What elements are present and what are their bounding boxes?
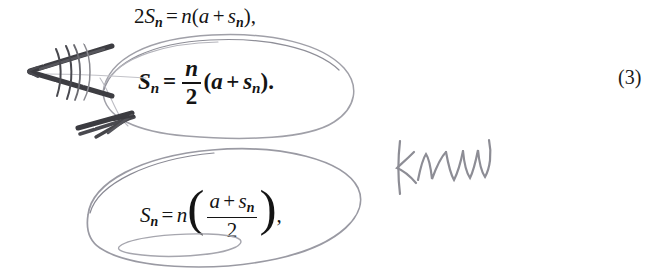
eq1-close-paren: ) (244, 4, 251, 28)
arrow-left (28, 44, 112, 100)
eq3-numerator-s: s (239, 189, 247, 213)
equation-1: 2Sn=n(a+sn), (134, 6, 256, 30)
eq2-trailing-punct: . (268, 69, 274, 94)
eq3-fraction-numerator: a+sn (207, 191, 257, 215)
eq1-lhs-variable: S (145, 4, 156, 28)
eq3-numerator-plus: + (220, 189, 239, 213)
eq3-equals: = (158, 203, 177, 227)
eq3-fraction-denominator: 2 (207, 220, 257, 241)
connector-stroke (46, 74, 146, 126)
eq3-numerator-s-subscript: n (247, 200, 255, 215)
eq1-plus: + (209, 4, 228, 28)
eq2-equals: = (159, 69, 179, 94)
eq2-fraction-numerator: n (182, 57, 200, 80)
eq3-rhs-factor: n (177, 203, 188, 227)
equation-3: Sn=n(a+sn2), (140, 192, 282, 242)
eq2-fraction-denominator: 2 (182, 85, 200, 108)
eq2-lhs-subscript: n (151, 79, 159, 96)
eq1-term-s: s (228, 4, 236, 28)
equation-number: (3) (618, 66, 641, 89)
eq1-open-paren: ( (192, 4, 199, 28)
eq2-term-a: a (211, 69, 223, 94)
eq1-term-s-subscript: n (236, 15, 244, 30)
handwritten-note-know (397, 140, 490, 194)
eq2-plus: + (223, 69, 243, 94)
eq1-trailing-punct: , (251, 4, 256, 28)
eq2-lhs-variable: S (138, 69, 151, 94)
eq1-equals: = (163, 4, 182, 28)
arrowhead-lower (78, 113, 134, 137)
eq3-trailing-punct: , (277, 203, 282, 227)
eq1-coefficient: 2 (134, 4, 145, 28)
eq1-rhs-factor: n (181, 4, 192, 28)
pencil-annotation-layer (0, 0, 667, 275)
eq3-fraction: a+sn2 (207, 191, 257, 241)
eq2-term-s: s (243, 69, 252, 94)
eq2-fraction: n2 (182, 57, 200, 109)
eq3-numerator-a: a (209, 189, 220, 213)
eq1-term-a: a (199, 4, 210, 28)
eq3-lhs-variable: S (140, 203, 151, 227)
eq2-term-s-subscript: n (252, 79, 260, 96)
equation-2: Sn=n2(a+sn). (138, 58, 274, 110)
eq1-lhs-subscript: n (155, 15, 163, 30)
eq3-open-paren: ( (187, 179, 204, 236)
eq3-close-paren: ) (259, 179, 276, 236)
scanned-page: 2Sn=n(a+sn), Sn=n2(a+sn). Sn=n(a+sn2), (… (0, 0, 667, 275)
